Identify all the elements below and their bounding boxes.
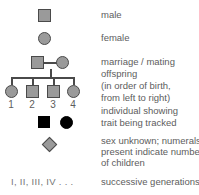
offspring-order-2: 2 <box>25 100 39 110</box>
pedigree-legend: male female marriage / mating 1 2 3 4 of… <box>0 0 199 195</box>
male-square-symbol <box>38 9 51 22</box>
sibship-drop-line-3 <box>53 77 55 85</box>
affected-label-line2: trait being tracked <box>101 117 177 129</box>
affected-label-line1: individual showing <box>101 105 178 117</box>
offspring-child-4-circle-symbol <box>67 85 80 98</box>
unknown-sex-label-line1: sex unknown; numerals <box>101 135 199 147</box>
offspring-order-3: 3 <box>46 100 60 110</box>
affected-male-square-symbol <box>38 116 50 128</box>
offspring-order-4: 4 <box>66 100 80 110</box>
male-label: male <box>101 9 122 21</box>
offspring-order-1: 1 <box>4 100 18 110</box>
offspring-child-3-square-symbol <box>47 85 60 98</box>
offspring-child-2-square-symbol <box>26 85 39 98</box>
offspring-child-1-circle-symbol <box>5 85 18 98</box>
affected-female-circle-symbol <box>60 116 73 129</box>
offspring-label-line1: offspring <box>101 68 137 80</box>
descent-line <box>50 69 52 77</box>
marriage-female-circle-symbol <box>56 56 69 69</box>
offspring-label-line3: from left to right) <box>101 92 170 104</box>
unknown-sex-label-line3: of children <box>101 157 145 169</box>
generations-label: successive generations <box>101 176 199 188</box>
unknown-sex-label-line2: present indicate number <box>101 146 199 158</box>
sibship-drop-line-2 <box>32 77 34 85</box>
offspring-label-line2: (in order of birth, <box>101 80 171 92</box>
marriage-label: marriage / mating <box>101 56 175 68</box>
unknown-sex-diamond-symbol <box>42 137 58 153</box>
female-circle-symbol <box>38 32 51 45</box>
sibship-drop-line-1 <box>11 77 13 85</box>
marriage-male-square-symbol <box>31 56 44 69</box>
roman-numerals-symbol: I, II, III, IV . . . <box>11 176 74 187</box>
sibship-bar <box>11 77 74 79</box>
sibship-drop-line-4 <box>73 77 75 85</box>
female-label: female <box>101 32 130 44</box>
